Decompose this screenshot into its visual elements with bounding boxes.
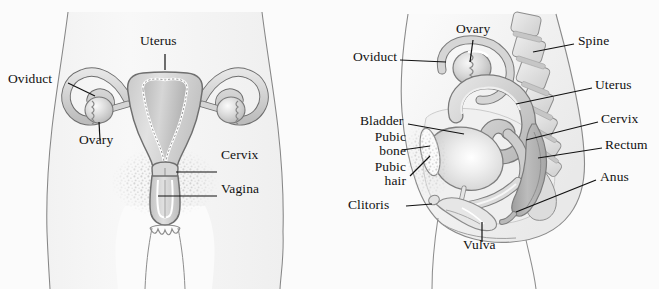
label-clitoris: Clitoris — [348, 198, 389, 211]
label-uterus-anterior: Uterus — [140, 34, 177, 47]
ovary-right — [217, 97, 245, 124]
vagina — [150, 176, 180, 225]
label-ovary-anterior: Ovary — [79, 133, 113, 146]
label-cervix-sagittal: Cervix — [601, 112, 638, 125]
label-pubic-hair: Pubic hair — [350, 160, 406, 188]
anatomy-figure: Oviduct Uterus Ovary Cervix Vagina — [0, 0, 659, 289]
label-spine: Spine — [578, 34, 609, 47]
label-pubic-bone-line1: Pubic — [375, 129, 406, 144]
label-pubic-bone-line2: bone — [379, 143, 406, 158]
ovary-left — [85, 97, 113, 124]
vulva-opening — [150, 225, 180, 235]
label-pubic-hair-line1: Pubic — [375, 159, 406, 174]
label-vagina-anterior: Vagina — [221, 182, 259, 195]
label-pubic-hair-line2: hair — [385, 173, 406, 188]
label-anus: Anus — [600, 170, 629, 183]
panel-anterior-view: Oviduct Uterus Ovary Cervix Vagina — [0, 0, 330, 289]
label-ovary-sagittal: Ovary — [456, 22, 490, 35]
label-oviduct-anterior: Oviduct — [8, 72, 52, 85]
pubic-hair-texture-sagittal — [400, 116, 458, 208]
label-rectum: Rectum — [605, 138, 648, 151]
label-vulva: Vulva — [463, 238, 496, 251]
label-uterus-sagittal: Uterus — [595, 78, 632, 91]
label-cervix-anterior: Cervix — [221, 148, 258, 161]
label-pubic-bone: Pubic bone — [350, 130, 406, 158]
panel-sagittal-view: Ovary Oviduct Spine Uterus Cervix Bladde… — [330, 0, 659, 289]
label-oviduct-sagittal: Oviduct — [353, 50, 397, 63]
label-bladder: Bladder — [360, 114, 403, 127]
